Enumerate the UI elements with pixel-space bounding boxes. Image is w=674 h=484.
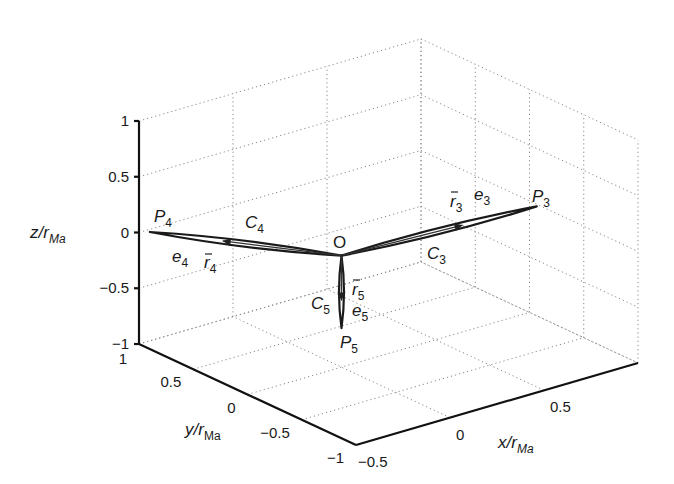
e3-label: e3 [474,185,490,208]
y-tick-label: 0.5 [160,373,181,390]
x-axis-label: x/rMa [497,433,534,456]
c5-label: C5 [311,294,330,317]
3d-trajectory-plot: −1−0.500.51−1−0.500.51−0.500.5 z/rMa y/r… [0,0,674,484]
p5-label: P5 [340,333,358,356]
grid-line [139,262,421,344]
grid-line [248,312,530,394]
axes [134,121,638,445]
x-tick-label: 0.5 [550,398,571,415]
y-tick-label: −0.5 [260,424,290,441]
vector-r4 [223,241,342,256]
y-tick-label: −1 [327,449,344,466]
c3-label: C3 [427,244,446,267]
z-tick-label: 0.5 [108,168,129,185]
x-tick-label: −0.5 [358,453,388,470]
c4-label: C4 [245,213,264,236]
y-tick-label: 0 [227,399,235,416]
r5-label: r5 [352,280,365,303]
vector-r3 [342,225,463,256]
grid-line [139,95,421,177]
grid-line [139,39,421,121]
r4-label: r4 [204,253,217,276]
grid-line [139,150,421,232]
z-axis-label: z/rMa [29,223,66,246]
p4-label: P4 [154,207,172,230]
origin-label: O [333,233,346,252]
r3-label: r3 [450,192,463,215]
y-axis-label: y/rMa [184,420,221,443]
x-tick-label: 0 [456,426,464,443]
z-tick-label: 1 [121,112,129,129]
grid-line [139,262,421,344]
e4-label: e4 [172,247,188,270]
x-axis-line [356,363,638,445]
z-tick-label: −0.5 [99,279,129,296]
y-tick-label: 1 [119,350,127,367]
tick-labels: −1−0.500.51−1−0.500.51−0.500.5 [99,112,570,470]
grid-line [193,287,475,369]
z-tick-label: 0 [121,224,129,241]
e5-label: e5 [352,301,368,324]
